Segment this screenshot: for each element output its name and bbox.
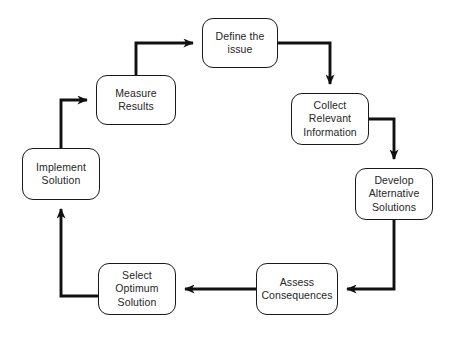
node-implement-solution[interactable]: Implement Solution	[22, 148, 100, 200]
node-develop-alternative-solutions[interactable]: Develop Alternative Solutions	[355, 168, 433, 220]
node-select-optimum-solution[interactable]: Select Optimum Solution	[98, 263, 176, 315]
node-label-collect-relevant-information: Collect Relevant Information	[300, 99, 360, 140]
node-label-assess-consequences: Assess Consequences	[258, 276, 335, 303]
node-assess-consequences[interactable]: Assess Consequences	[256, 263, 338, 315]
node-label-implement-solution: Implement Solution	[33, 161, 89, 188]
node-collect-relevant-information[interactable]: Collect Relevant Information	[291, 93, 369, 145]
node-define-the-issue[interactable]: Define the issue	[202, 18, 278, 68]
decision-process-diagram: Define the issue Collect Relevant Inform…	[0, 0, 454, 342]
edge-define-to-collect	[278, 43, 330, 84]
edge-implement-to-measure	[61, 100, 87, 148]
edge-measure-to-define	[136, 43, 193, 75]
node-label-measure-results: Measure Results	[112, 87, 160, 114]
node-label-define-the-issue: Define the issue	[213, 30, 268, 57]
edge-collect-to-develop	[369, 119, 394, 159]
edge-select-to-implement	[61, 209, 98, 296]
node-measure-results[interactable]: Measure Results	[96, 75, 176, 125]
edge-develop-to-assess	[347, 220, 394, 289]
node-label-develop-alternative-solutions: Develop Alternative Solutions	[366, 174, 423, 215]
node-label-select-optimum-solution: Select Optimum Solution	[112, 269, 161, 310]
